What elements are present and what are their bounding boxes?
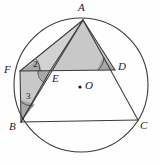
geometry-figure: AFEDBCO 23 <box>0 0 160 165</box>
vertex-label-b: B <box>9 121 16 132</box>
geometry-canvas <box>0 0 160 165</box>
vertex-label-c: C <box>140 120 147 131</box>
circle-center-dot <box>78 85 81 88</box>
vertex-label-a: A <box>78 2 85 13</box>
vertex-label-f: F <box>4 64 11 75</box>
angle-3-at-b-label: 3 <box>26 92 31 101</box>
angle-2-at-f-label: 2 <box>33 60 38 69</box>
vertex-label-d: D <box>118 61 126 72</box>
vertex-label-e: E <box>52 73 59 84</box>
segment-bc <box>21 120 138 122</box>
vertex-label-o: O <box>85 80 93 91</box>
